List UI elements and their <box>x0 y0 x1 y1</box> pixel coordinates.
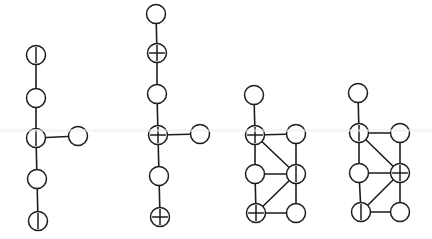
node-circle[interactable] <box>350 164 369 183</box>
graph-3-node-upper-right[interactable] <box>287 125 306 144</box>
graph-2-node-right-branch[interactable] <box>191 125 210 144</box>
graph-2-node-upper[interactable] <box>148 44 167 63</box>
graph-4-node-top-stub[interactable] <box>349 84 368 103</box>
graph-4-node-upper-right[interactable] <box>391 124 410 143</box>
graph-4-node-bottom-right[interactable] <box>391 203 410 222</box>
node-circle[interactable] <box>69 127 88 146</box>
node-circle[interactable] <box>287 204 306 223</box>
node-circle[interactable] <box>150 167 169 186</box>
graph-1 <box>27 46 88 231</box>
graph-2-node-center[interactable] <box>149 126 168 145</box>
graph-4-edges <box>358 93 400 212</box>
graph-3-node-upper-left[interactable] <box>246 126 265 145</box>
node-circle[interactable] <box>148 85 167 104</box>
graph-3-node-top-stub[interactable] <box>245 86 264 105</box>
graph-3-node-bottom-right[interactable] <box>287 204 306 223</box>
graph-3-edges <box>254 95 296 213</box>
graph-1-node-upper-middle[interactable] <box>27 89 46 108</box>
node-circle[interactable] <box>245 86 264 105</box>
graph-3 <box>245 86 306 223</box>
graph-figure-svg <box>0 0 432 239</box>
graph-2-node-bottom[interactable] <box>151 208 170 227</box>
node-circle[interactable] <box>349 84 368 103</box>
node-circle[interactable] <box>147 5 166 24</box>
graph-3-node-middle-left[interactable] <box>246 165 265 184</box>
graph-4-node-upper-left[interactable] <box>350 124 369 143</box>
node-circle[interactable] <box>246 165 265 184</box>
node-circle[interactable] <box>191 125 210 144</box>
graph-2-node-upper-middle[interactable] <box>148 85 167 104</box>
graph-2 <box>147 5 210 227</box>
graph-1-node-bottom[interactable] <box>29 212 48 231</box>
node-circle[interactable] <box>287 125 306 144</box>
graph-1-node-top[interactable] <box>27 46 46 65</box>
graph-4 <box>349 84 410 222</box>
graph-2-node-top[interactable] <box>147 5 166 24</box>
graph-4-node-middle-left[interactable] <box>350 164 369 183</box>
node-circle[interactable] <box>391 203 410 222</box>
graph-1-node-right-branch[interactable] <box>69 127 88 146</box>
graph-2-node-lower-middle[interactable] <box>150 167 169 186</box>
graph-4-node-bottom-left[interactable] <box>352 203 371 222</box>
graph-1-node-center[interactable] <box>27 129 46 148</box>
node-circle[interactable] <box>27 89 46 108</box>
node-circle[interactable] <box>391 124 410 143</box>
graph-1-node-lower-middle[interactable] <box>28 170 47 189</box>
figure-canvas <box>0 0 432 239</box>
graph-4-node-middle-right[interactable] <box>391 164 410 183</box>
graph-3-node-bottom-left[interactable] <box>247 204 266 223</box>
graph-3-node-middle-right[interactable] <box>287 165 306 184</box>
node-circle[interactable] <box>28 170 47 189</box>
